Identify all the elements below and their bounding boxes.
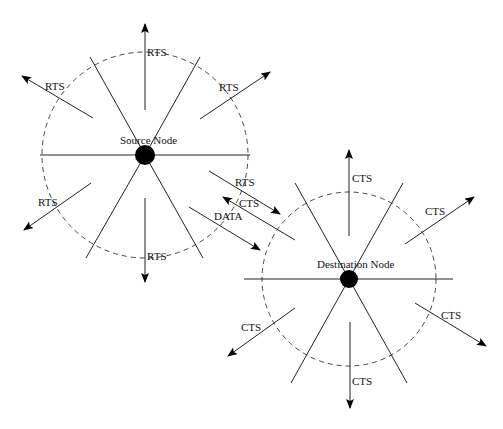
label-rts-upleft: RTS — [45, 81, 65, 92]
rts-arrow-upright — [200, 72, 270, 119]
label-cts-upright: CTS — [425, 206, 445, 217]
label-destination-node: Destination Node — [317, 259, 394, 270]
source-spoke — [86, 155, 145, 258]
label-rts-up: RTS — [147, 47, 167, 58]
label-rts-upright: RTS — [219, 82, 239, 93]
cts-arrow-downleft — [228, 308, 295, 356]
destination-node-group — [228, 150, 486, 408]
source-node-group — [22, 24, 270, 282]
label-cts-downleft: CTS — [241, 322, 261, 333]
source-node-dot — [135, 145, 155, 165]
label-rts-downleft: RTS — [38, 197, 58, 208]
label-cts-downright: CTS — [441, 310, 461, 321]
rts-cts-diagram: RTS RTS RTS Source Node RTS RTS RTS CTS … — [0, 0, 503, 429]
label-exchange-cts: CTS — [239, 198, 259, 209]
destination-node-dot — [340, 270, 358, 288]
label-exchange-data: DATA — [214, 211, 242, 222]
label-exchange-rts: RTS — [235, 177, 255, 188]
label-source-node: Source Node — [120, 135, 177, 146]
label-rts-down: RTS — [147, 251, 167, 262]
destination-spoke — [291, 279, 349, 383]
destination-spoke — [349, 279, 407, 383]
label-cts-up: CTS — [352, 173, 372, 184]
source-spoke — [145, 155, 203, 258]
label-cts-down: CTS — [352, 376, 372, 387]
